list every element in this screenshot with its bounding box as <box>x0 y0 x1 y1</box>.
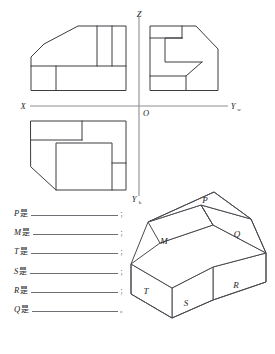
answer-blank-S[interactable] <box>30 264 118 274</box>
answer-end-Q: 。 <box>118 305 126 314</box>
answer-row-M: M 是 ； <box>14 225 126 244</box>
answer-blank-P[interactable] <box>31 206 118 216</box>
solid-label-Q: Q <box>234 229 241 239</box>
answer-row-P: P 是 ； <box>14 206 126 225</box>
answer-blank-R[interactable] <box>31 283 118 293</box>
drawing-sheet: X Z O Y w Y h <box>0 0 275 354</box>
answer-blank-M[interactable] <box>33 225 118 235</box>
answer-is-word-M: 是 <box>22 226 33 237</box>
answer-blank-T[interactable] <box>31 244 118 254</box>
answer-list: P 是 ； M 是 ； T 是 ； S 是 ； R 是 ； <box>14 206 126 321</box>
answer-row-T: T 是 ； <box>14 244 126 263</box>
answer-is-word-T: 是 <box>20 245 31 256</box>
answer-end-S: ； <box>118 267 126 276</box>
answer-blank-Q[interactable] <box>32 302 118 312</box>
answer-end-T: ； <box>118 247 126 256</box>
isometric-solid: P Q M R S T <box>131 192 266 318</box>
solid-label-R: R <box>232 280 239 290</box>
answer-is-word-P: 是 <box>20 207 31 218</box>
answer-row-Q: Q 是 。 <box>14 302 126 321</box>
answer-is-word-Q: 是 <box>21 303 32 314</box>
answer-end-R: ； <box>118 286 126 295</box>
answer-key-Q: Q <box>14 304 21 314</box>
answer-row-S: S 是 ； <box>14 264 126 283</box>
answer-key-M: M <box>14 227 22 237</box>
solid-label-M: M <box>159 236 168 246</box>
answer-is-word-R: 是 <box>20 284 31 295</box>
answer-is-word-S: 是 <box>19 265 30 276</box>
answer-row-R: R 是 ； <box>14 283 126 302</box>
answer-end-P: ； <box>118 209 126 218</box>
answer-end-M: ； <box>118 228 126 237</box>
solid-label-S: S <box>184 298 189 308</box>
solid-label-P: P <box>201 195 208 205</box>
